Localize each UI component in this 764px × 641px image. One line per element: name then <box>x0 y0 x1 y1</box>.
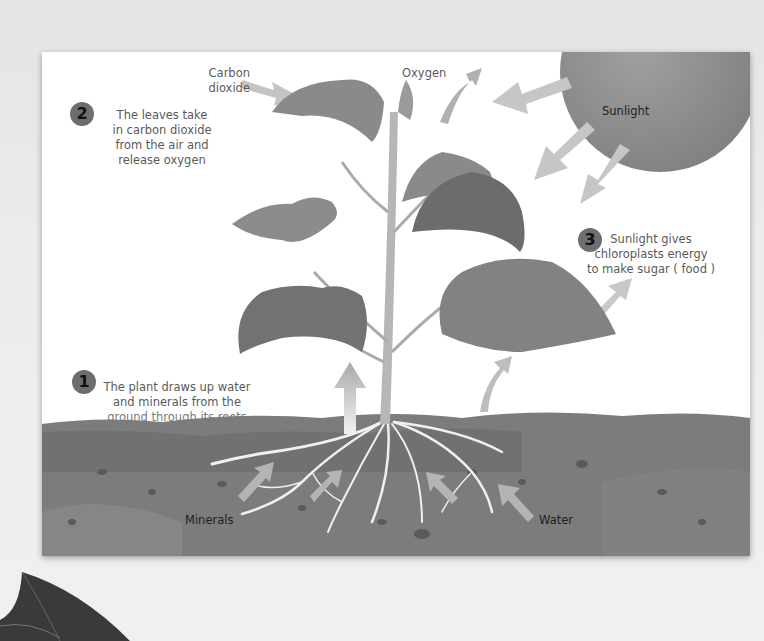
decorative-leaf-icon <box>0 560 140 641</box>
oxygen-label: Oxygen <box>402 66 446 81</box>
minerals-label: Minerals <box>185 513 233 528</box>
photosynthesis-diagram: Carbon dioxide Oxygen Sunlight Minerals … <box>42 52 750 556</box>
step-1-badge: 1 <box>72 370 96 394</box>
step-3-text: Sunlight gives chloroplasts energy to ma… <box>566 232 736 277</box>
sugar-arrow-icon <box>480 356 512 412</box>
sun <box>560 52 750 172</box>
step-2-badge: 2 <box>70 102 94 126</box>
water-label: Water <box>539 513 573 528</box>
stem <box>380 112 398 424</box>
step-1-text: The plant draws up water and minerals fr… <box>102 380 252 425</box>
step-2-text: The leaves take in carbon dioxide from t… <box>102 108 222 168</box>
carbon-dioxide-label: Carbon dioxide <box>170 66 250 96</box>
leaves <box>232 79 616 354</box>
sunlight-label: Sunlight <box>602 104 649 119</box>
